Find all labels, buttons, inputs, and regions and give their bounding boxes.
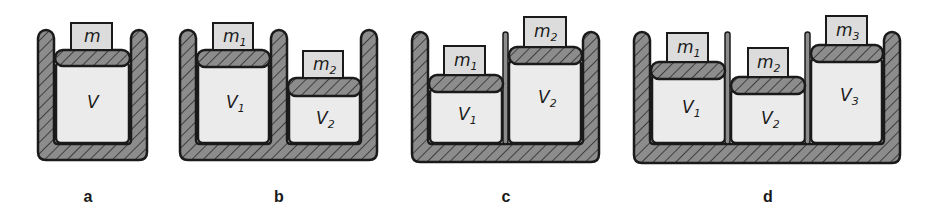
panel-caption: d (763, 188, 773, 205)
panel-c: m1 V1 m2 V2 c (412, 17, 599, 205)
cylinders-diagram: m V a m1 V1 m2 V2 b m1 V1 m2 V2 c (0, 0, 938, 218)
panel-caption: c (502, 188, 511, 205)
divider-1 (725, 32, 730, 144)
piston-2 (509, 47, 582, 64)
panel-b: m1 V1 m2 V2 b (180, 23, 377, 205)
panel-caption: b (274, 188, 284, 205)
mass-label: m (84, 26, 101, 46)
piston-2 (731, 77, 805, 94)
piston-3 (811, 45, 883, 62)
panel-d: m1 V1 m2 V2 m3 V3 d (634, 16, 900, 205)
piston-2 (288, 78, 361, 96)
volume-label: V (87, 92, 100, 112)
piston (55, 50, 130, 66)
piston-1 (429, 75, 503, 92)
panel-a: m V a (38, 23, 147, 205)
piston-1 (197, 50, 270, 67)
piston-1 (651, 62, 725, 79)
divider (503, 32, 508, 144)
panel-caption: a (84, 188, 93, 205)
